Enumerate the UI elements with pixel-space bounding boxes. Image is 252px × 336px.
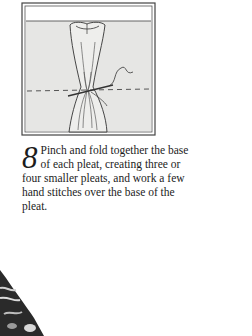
step-number: 8	[22, 145, 38, 171]
step-text: Pinch and fold together the base of each…	[22, 144, 188, 212]
step-instruction: 8 Pinch and fold together the base of ea…	[22, 143, 192, 213]
fabric-photo-corner	[0, 270, 50, 336]
step-illustration	[21, 2, 156, 136]
